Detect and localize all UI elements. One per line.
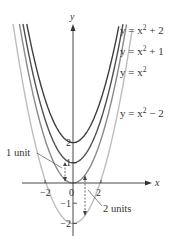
two-units-label: 2 units <box>103 203 131 214</box>
y-tick-label: −1 <box>60 198 71 209</box>
y-tick-label: −2 <box>60 218 71 229</box>
curve-equation-label: y = x2 <box>120 65 147 78</box>
curve-equation-label: y = x2 + 2 <box>120 23 164 36</box>
two-units-annotation: 2 units <box>83 175 131 216</box>
one-unit-annotation: 1 unit <box>6 147 67 182</box>
vertical-shift-diagram: x y −20221−1−2 1 unit 2 units y = x2 + 2… <box>0 0 178 248</box>
x-tick-label: −2 <box>40 187 51 198</box>
curve-labels: y = x2 + 2y = x2 + 1y = x2y = x2 − 2 <box>120 23 164 119</box>
x-axis-label: x <box>154 177 160 188</box>
curve-equation-label: y = x2 + 1 <box>120 44 164 57</box>
curve-equation-label: y = x2 − 2 <box>120 106 164 119</box>
y-axis-arrow-icon <box>71 24 76 31</box>
x-tick-label: 2 <box>96 187 101 198</box>
x-tick-label: 0 <box>69 187 74 198</box>
y-axis-label: y <box>69 11 75 22</box>
one-unit-label: 1 unit <box>6 147 30 158</box>
y-tick-label: 1 <box>66 157 71 168</box>
x-axis-arrow-icon <box>145 181 152 186</box>
y-tick-label: 2 <box>66 137 71 148</box>
